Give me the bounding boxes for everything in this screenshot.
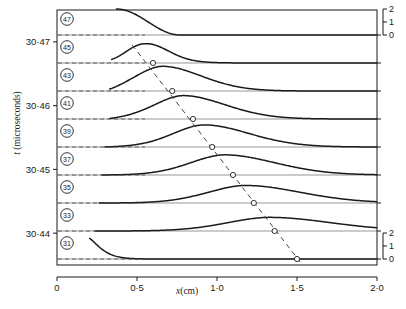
- pulse-trace: [95, 217, 376, 231]
- trajectory-marker: [210, 144, 215, 149]
- x-axis-unit: (cm): [180, 286, 198, 296]
- amplitude-tick-label-top: 1: [389, 17, 394, 27]
- amplitude-tick-label-bottom: 1: [389, 241, 394, 251]
- trace-label: 41: [63, 100, 71, 107]
- trajectory-marker: [272, 228, 277, 233]
- plot-frame: [57, 10, 377, 265]
- pulse-trace: [102, 155, 377, 175]
- trace-label: 47: [63, 16, 71, 23]
- trace-label: 31: [63, 240, 71, 247]
- y-tick-label: 30·47: [26, 36, 50, 47]
- amplitude-tick-label-top: 2: [389, 4, 394, 14]
- y-tick-label: 30·44: [26, 228, 50, 239]
- trace-label: 35: [63, 184, 71, 191]
- pulse-trace: [110, 66, 377, 91]
- x-tick-label: 1·5: [290, 282, 304, 293]
- trajectory-marker: [251, 200, 256, 205]
- y-axis-title: t (microseconds): [12, 73, 22, 173]
- trace-label: 43: [63, 72, 71, 79]
- pulse-trace: [110, 96, 377, 119]
- x-axis-title: x(cm): [176, 286, 198, 296]
- trajectory-marker: [170, 88, 175, 93]
- amplitude-tick-label-bottom: 0: [389, 254, 394, 264]
- trajectory-marker: [294, 256, 299, 261]
- trace-label: 45: [63, 44, 71, 51]
- amplitude-tick-label-top: 0: [389, 30, 394, 40]
- y-axis-unit: (microseconds): [12, 91, 22, 150]
- trajectory-marker: [190, 116, 195, 121]
- trajectory-marker: [150, 60, 155, 65]
- x-tick-label: 1·0: [210, 282, 224, 293]
- y-axis-symbol: t: [12, 152, 22, 155]
- figure-root: 30·4730·4630·4530·4400·51·01·52·04745434…: [0, 0, 406, 309]
- y-tick-label: 30·45: [26, 164, 50, 175]
- plot-canvas: 30·4730·4630·4530·4400·51·01·52·04745434…: [0, 0, 406, 309]
- pulse-trace: [90, 238, 377, 259]
- pulse-trace: [105, 125, 377, 147]
- trajectory-marker: [230, 172, 235, 177]
- trace-label: 37: [63, 156, 71, 163]
- pulse-trace: [99, 185, 376, 203]
- trace-label: 39: [63, 128, 71, 135]
- x-tick-label: 0·5: [130, 282, 144, 293]
- pulse-trace: [112, 44, 377, 63]
- x-tick-label: 0: [54, 282, 59, 293]
- trace-label: 33: [63, 212, 71, 219]
- pulse-trace: [117, 9, 377, 35]
- y-tick-label: 30·46: [26, 100, 50, 111]
- x-tick-label: 2·0: [370, 282, 384, 293]
- amplitude-tick-label-bottom: 2: [389, 228, 394, 238]
